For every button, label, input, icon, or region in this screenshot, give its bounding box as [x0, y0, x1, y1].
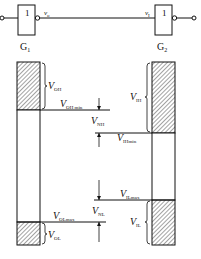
voh-region: [17, 62, 40, 110]
vnh-label: VNH: [91, 115, 105, 127]
gate-g1-label: G1: [20, 41, 30, 53]
output-level-bar: VOH VOH min VOLmax VOL: [17, 62, 110, 245]
gate-g2-symbol: 1: [162, 8, 167, 18]
vol-label: VOL: [48, 229, 61, 241]
noise-margin-diagram: 1 vo vI 1 G1 G2 VOH VOH min VOLmax VOL: [0, 0, 201, 259]
gate-g1-symbol: 1: [25, 8, 30, 18]
vnl-label: VNL: [92, 205, 105, 217]
vol-max-label: VOLmax: [53, 210, 75, 222]
vol-region: [17, 222, 40, 245]
vo-label: vo: [44, 9, 50, 18]
vil-brace: [145, 201, 150, 244]
input-terminal: [0, 16, 4, 20]
vol-brace: [42, 223, 47, 244]
vih-label: VIH: [130, 91, 142, 103]
voh-label: VOH: [48, 80, 62, 92]
voh-brace: [42, 63, 47, 109]
vil-label: VIL: [130, 216, 141, 228]
noise-margins: VNH VNL: [91, 98, 105, 242]
vih-region: [152, 62, 175, 133]
vih-min-label: VIHmin: [117, 132, 137, 144]
input-level-bar: VIH VIHmin VILmax VIL: [94, 62, 175, 245]
output-terminal: [192, 16, 196, 20]
output-forbidden-region: [17, 110, 40, 222]
voh-min-label: VOH min: [60, 98, 83, 110]
vih-brace: [145, 63, 150, 132]
g2-inverter-bubble: [172, 16, 176, 20]
vil-max-label: VILmax: [120, 188, 140, 200]
input-forbidden-region: [152, 133, 175, 200]
gate-circuit: 1 vo vI 1 G1 G2: [0, 5, 196, 53]
g1-inverter-bubble: [35, 16, 39, 20]
vil-region: [152, 200, 175, 245]
gate-g2-label: G2: [157, 41, 167, 53]
vi-label: vI: [145, 9, 150, 18]
